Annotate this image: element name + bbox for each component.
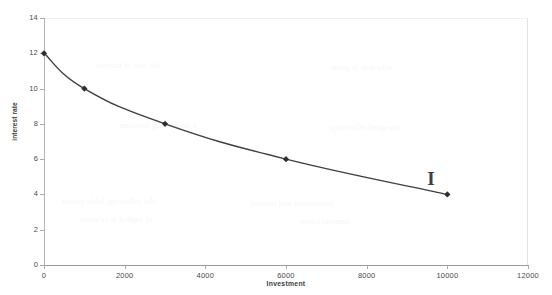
x-axis-title: Investment	[186, 280, 386, 287]
investment-interest-rate-chart: the following table showsinvestment and …	[0, 0, 552, 295]
series-markers	[41, 50, 451, 197]
series-layer	[0, 0, 552, 295]
data-point-10000-4	[444, 191, 450, 197]
data-point-3000-8	[162, 121, 168, 127]
data-point-1000-10	[81, 85, 87, 91]
annotation-label-i: I	[427, 169, 434, 189]
y-axis-title: interest rate	[11, 92, 18, 152]
series-line-interest-rate	[44, 53, 447, 194]
data-point-6000-6	[283, 156, 289, 162]
